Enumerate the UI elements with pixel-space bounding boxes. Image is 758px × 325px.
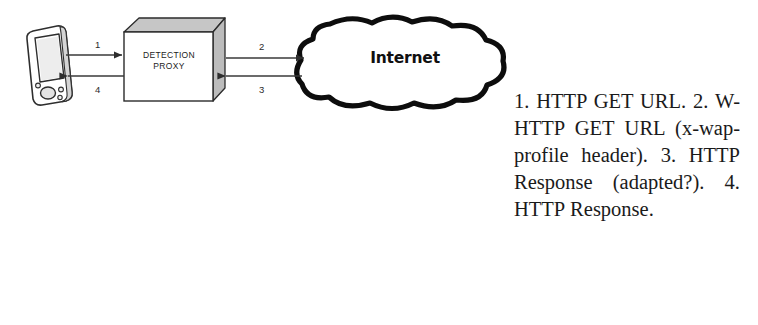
network-diagram: DETECTION PROXY Internet 1 2 3 4 xyxy=(0,0,520,130)
flow-label-4: 4 xyxy=(95,85,100,95)
figure-caption: 1. HTTP GET URL. 2. W-HTTP GET URL (x-wa… xyxy=(514,88,740,223)
internet-label: Internet xyxy=(330,49,480,67)
flow-label-3: 3 xyxy=(259,85,264,95)
figure-root: DETECTION PROXY Internet 1 2 3 4 1. HTTP… xyxy=(0,0,758,325)
flow-label-1: 1 xyxy=(95,40,100,50)
pda-device-icon xyxy=(27,26,72,105)
flow-label-2: 2 xyxy=(259,42,264,52)
detection-proxy-label: DETECTION PROXY xyxy=(128,50,210,72)
